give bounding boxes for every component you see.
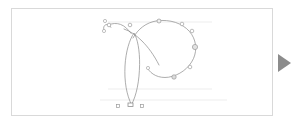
node-flourish-bottom[interactable]: [102, 29, 105, 32]
glyph-canvas[interactable]: [11, 8, 273, 116]
flourish-entry-stroke: [109, 23, 132, 33]
node-flourish-tip[interactable]: [103, 19, 106, 22]
node-flourish-start[interactable]: [107, 23, 111, 27]
glyph-outline-path[interactable]: [104, 20, 196, 104]
node-bowl-right-upper[interactable]: [190, 29, 194, 33]
anchor-stem-base[interactable]: [128, 103, 133, 107]
node-bowl-right-mid[interactable]: [192, 44, 197, 49]
glyph-editor-app: [0, 0, 295, 126]
anchor-origin-left[interactable]: [117, 105, 120, 108]
play-triangle-icon[interactable]: [276, 53, 292, 73]
stem-loop-stroke: [125, 33, 140, 105]
node-bowl-bottom[interactable]: [172, 75, 176, 79]
next-glyph-arrow[interactable]: [276, 53, 292, 73]
node-shoulder-left[interactable]: [128, 23, 132, 27]
stem-cross-stroke: [124, 29, 159, 65]
glyph-outline-svg[interactable]: [12, 9, 272, 115]
metric-guides: [100, 22, 227, 100]
node-bowl-top[interactable]: [157, 19, 161, 23]
node-bowl-top-right[interactable]: [180, 22, 184, 26]
play-triangle-shape: [278, 54, 291, 72]
node-bowl-right-lower[interactable]: [188, 65, 192, 69]
bowl-outer-stroke: [133, 20, 196, 77]
control-point-handles[interactable]: [102, 19, 197, 79]
anchor-square-handles[interactable]: [117, 103, 144, 108]
node-bowl-inner-left[interactable]: [146, 66, 149, 69]
anchor-width[interactable]: [141, 105, 144, 108]
